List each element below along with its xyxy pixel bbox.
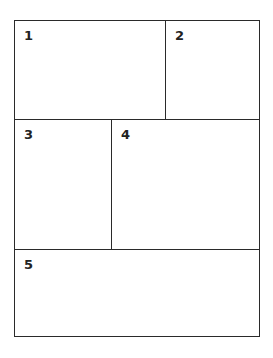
panel-2-label: 2 (175, 29, 184, 42)
panel-3-label: 3 (24, 128, 33, 141)
panel-3: 3 (15, 120, 112, 250)
panel-4-label: 4 (121, 128, 130, 141)
panel-2: 2 (166, 21, 259, 120)
layout-frame: 1 2 3 4 5 (14, 20, 260, 337)
panel-5-label: 5 (24, 258, 33, 271)
panel-1-label: 1 (24, 29, 33, 42)
panel-4: 4 (112, 120, 259, 250)
panel-1: 1 (15, 21, 166, 120)
panel-5: 5 (15, 250, 259, 336)
